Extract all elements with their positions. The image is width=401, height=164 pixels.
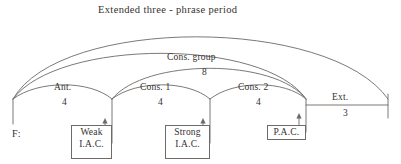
arc-count-consequent-1: 4 (158, 98, 163, 108)
arrowhead-pac (296, 113, 301, 119)
diagram-title: Extended three - phrase period (98, 5, 237, 16)
cadence-box-strong-iac-line2: I.A.C. (168, 139, 207, 151)
cadence-box-weak-iac: Weak I.A.C. (71, 125, 112, 159)
cadence-box-pac-line1: P.A.C. (270, 127, 303, 139)
cadence-box-weak-iac-line2: I.A.C. (74, 139, 109, 151)
arc-count-cons-group: 8 (202, 68, 207, 78)
arc-label-extension: Ext. (332, 93, 348, 103)
cadence-box-pac: P.A.C. (267, 125, 306, 140)
arc-count-extension: 3 (343, 109, 348, 119)
arc-label-consequent-2: Cons. 2 (238, 83, 268, 93)
cadence-box-strong-iac: Strong I.A.C. (165, 125, 210, 159)
cadence-box-strong-iac-line1: Strong (168, 127, 207, 139)
arc-count-consequent-2: 4 (256, 98, 261, 108)
cadence-box-weak-iac-line1: Weak (74, 127, 109, 139)
arc-label-cons-group: Cons. group (167, 53, 216, 63)
arrowhead-weak-iac (102, 118, 107, 124)
arrowhead-strong-iac (200, 118, 205, 124)
arc-label-consequent-1: Cons. 1 (140, 83, 170, 93)
phrase-structure-diagram: Extended three - phrase period Cons. gro… (0, 0, 401, 164)
arc-label-antecedent: Ant. (54, 83, 71, 93)
arc-count-antecedent: 4 (62, 98, 67, 108)
baseline-label: F: (12, 129, 21, 139)
